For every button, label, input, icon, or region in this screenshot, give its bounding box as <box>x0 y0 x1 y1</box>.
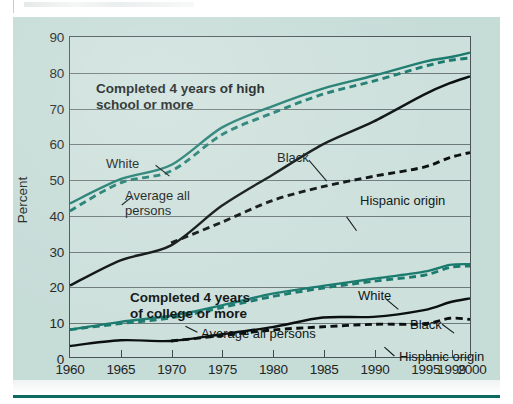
leader-hs-black <box>309 160 327 181</box>
leader-hs-white <box>156 165 170 176</box>
label-college-white: White <box>358 289 391 304</box>
college-group-title: Completed 4 years of college or more <box>130 290 250 322</box>
x-tick-label: 1975 <box>208 362 237 377</box>
label-hs-hispanic: Hispanic origin <box>360 194 445 209</box>
x-tick-label: 1970 <box>157 362 186 377</box>
college-group-title-line2: of college or more <box>130 306 250 322</box>
x-tick-label: 1990 <box>361 362 390 377</box>
hs-group-title: Completed 4 years of high school or more <box>96 81 265 113</box>
scan-artifact-tick <box>13 0 14 13</box>
footer-accent-rule <box>13 395 500 398</box>
plot-area: 0102030405060708090 19601965197019751980… <box>69 36 471 358</box>
chart-panel: Percent 0102030405060708090 196019651970… <box>13 17 500 380</box>
hs-group-title-line1: Completed 4 years of high <box>96 81 265 97</box>
y-tick-label: 90 <box>49 30 64 45</box>
label-hs-average-line1: Average all <box>125 189 190 204</box>
y-tick-label: 50 <box>49 173 64 188</box>
college-group-title-line1: Completed 4 years <box>130 290 250 306</box>
y-axis-title: Percent <box>15 177 30 224</box>
label-college-hispanic: Hispanic origin <box>399 350 484 365</box>
y-tick-label: 10 <box>49 316 64 331</box>
x-tick-label: 1980 <box>259 362 288 377</box>
x-tick-label: 1960 <box>56 362 85 377</box>
x-tick-label: 1985 <box>310 362 339 377</box>
y-tick-label: 80 <box>49 65 64 80</box>
y-tick-label: 30 <box>49 244 64 259</box>
label-college-average: Average all persons <box>201 327 316 342</box>
label-hs-average: Average all persons <box>125 189 190 218</box>
leader-col-black <box>442 324 454 333</box>
y-tick-label: 70 <box>49 101 64 116</box>
label-college-black: Black <box>410 318 442 333</box>
label-hs-white: White <box>106 157 139 172</box>
y-tick-label: 60 <box>49 137 64 152</box>
y-tick-label: 40 <box>49 208 64 223</box>
bottom-fade <box>13 380 500 393</box>
figure-container: Percent 0102030405060708090 196019651970… <box>0 0 513 404</box>
hs-group-title-line2: school or more <box>96 97 265 113</box>
leader-hs-hispanic <box>347 217 357 231</box>
y-tick-label: 20 <box>49 280 64 295</box>
leader-col-hispanic <box>384 347 394 356</box>
scan-artifact-smudge <box>24 2 194 7</box>
leader-col-average <box>185 326 197 332</box>
x-tick-label: 1965 <box>106 362 135 377</box>
label-hs-black: Black <box>277 151 309 166</box>
label-hs-average-line2: persons <box>125 204 190 219</box>
